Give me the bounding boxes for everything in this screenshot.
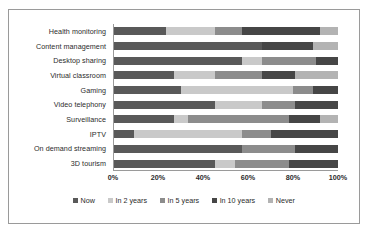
stacked-bar xyxy=(114,101,338,109)
bar-row xyxy=(114,83,338,98)
bar-segment xyxy=(174,115,187,123)
bar-segment xyxy=(181,86,293,94)
axis-tick-label: 80% xyxy=(286,173,300,182)
category-axis-labels: Health monitoringContent managementDeskt… xyxy=(9,24,110,171)
legend-item[interactable]: In 5 years xyxy=(160,196,199,205)
bar-row xyxy=(114,97,338,112)
legend-item[interactable]: Never xyxy=(268,196,295,205)
category-label: Surveillance xyxy=(9,112,110,127)
legend-swatch-icon xyxy=(268,198,273,203)
bar-segment xyxy=(114,71,174,79)
bar-segment xyxy=(114,27,166,35)
stacked-bar xyxy=(114,115,338,123)
bar-segment xyxy=(114,86,181,94)
category-label: On demand streaming xyxy=(9,142,110,157)
bar-segment xyxy=(242,57,262,65)
axis-tick-label: 40% xyxy=(196,173,210,182)
bar-segment xyxy=(289,115,320,123)
category-label: Video telephony xyxy=(9,97,110,112)
category-label: Content management xyxy=(9,39,110,54)
bar-segment xyxy=(295,71,338,79)
bar-segment xyxy=(320,27,338,35)
stacked-bar xyxy=(114,27,338,35)
category-label: IPTV xyxy=(9,127,110,142)
axis-tick-label: 0% xyxy=(108,173,118,182)
legend-label: In 10 years xyxy=(220,196,256,205)
category-label: Desktop sharing xyxy=(9,53,110,68)
bar-row xyxy=(114,156,338,171)
bar-segment xyxy=(289,160,338,168)
stacked-bar xyxy=(114,145,338,153)
bar-segment xyxy=(242,130,271,138)
bar-row xyxy=(114,39,338,54)
stacked-bar xyxy=(114,57,338,65)
bar-segment xyxy=(316,57,338,65)
legend-label: Never xyxy=(276,196,295,205)
bar-segment xyxy=(313,86,338,94)
bar-segment xyxy=(174,71,214,79)
bar-segment xyxy=(262,42,314,50)
axis-tick-label: 100% xyxy=(329,173,347,182)
bar-segment xyxy=(242,145,296,153)
legend-item[interactable]: In 10 years xyxy=(212,196,255,205)
bar-segment xyxy=(188,115,289,123)
bar-row xyxy=(114,24,338,39)
category-label: Virtual classroom xyxy=(9,68,110,83)
chart-container: Health monitoringContent managementDeskt… xyxy=(8,9,360,224)
bar-segment xyxy=(114,101,215,109)
category-label: Health monitoring xyxy=(9,24,110,39)
bar-segment xyxy=(114,130,134,138)
bar-row xyxy=(114,53,338,68)
stacked-bar xyxy=(114,86,338,94)
legend-swatch-icon xyxy=(108,198,113,203)
bar-row xyxy=(114,112,338,127)
bar-segment xyxy=(295,101,338,109)
legend-item[interactable]: In 2 years xyxy=(108,196,147,205)
bar-segment xyxy=(215,71,262,79)
bar-segment xyxy=(166,27,215,35)
bar-segment xyxy=(215,27,242,35)
bar-row xyxy=(114,68,338,83)
stacked-bar xyxy=(114,71,338,79)
legend-swatch-icon xyxy=(160,198,165,203)
bar-segment xyxy=(215,101,262,109)
bar-segment xyxy=(114,145,242,153)
bar-segment xyxy=(235,160,289,168)
bar-segment xyxy=(262,57,316,65)
bar-segment xyxy=(114,57,242,65)
legend-label: In 5 years xyxy=(168,196,200,205)
bar-segment xyxy=(134,130,242,138)
axis-tick-label: 60% xyxy=(241,173,255,182)
stacked-bar xyxy=(114,42,338,50)
stacked-bar xyxy=(114,130,338,138)
bar-segment xyxy=(320,115,338,123)
bar-segment xyxy=(271,130,338,138)
value-axis-labels: 0%20%40%60%80%100% xyxy=(113,173,338,185)
legend-label: Now xyxy=(81,196,95,205)
legend-swatch-icon xyxy=(73,198,78,203)
legend-swatch-icon xyxy=(212,198,217,203)
bar-segment xyxy=(114,42,262,50)
legend-label: In 2 years xyxy=(116,196,148,205)
bar-segment xyxy=(114,160,215,168)
bar-segment xyxy=(215,160,235,168)
bar-segment xyxy=(114,115,174,123)
bar-row xyxy=(114,142,338,157)
bar-segment xyxy=(295,145,338,153)
category-label: 3D tourism xyxy=(9,156,110,171)
bar-segment xyxy=(262,71,296,79)
stacked-bar xyxy=(114,160,338,168)
axis-tick-label: 20% xyxy=(151,173,165,182)
bar-segment xyxy=(242,27,320,35)
bar-segment xyxy=(293,86,313,94)
bar-row xyxy=(114,127,338,142)
legend-item[interactable]: Now xyxy=(73,196,95,205)
bar-segment xyxy=(313,42,338,50)
chart-legend: NowIn 2 yearsIn 5 yearsIn 10 yearsNever xyxy=(9,196,359,205)
category-label: Gaming xyxy=(9,83,110,98)
plot-area xyxy=(113,24,338,171)
bar-segment xyxy=(262,101,296,109)
